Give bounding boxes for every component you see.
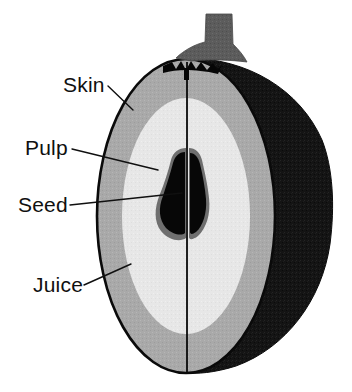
label-seed: Seed [18,193,68,216]
fruit-cross-section-illustration: Skin Pulp Seed Juice [0,0,352,392]
label-skin: Skin [63,73,105,96]
label-juice: Juice [33,273,83,296]
fruit-diagram: Skin Pulp Seed Juice [0,0,352,392]
calyx-stub [184,68,189,80]
label-pulp: Pulp [25,136,68,159]
